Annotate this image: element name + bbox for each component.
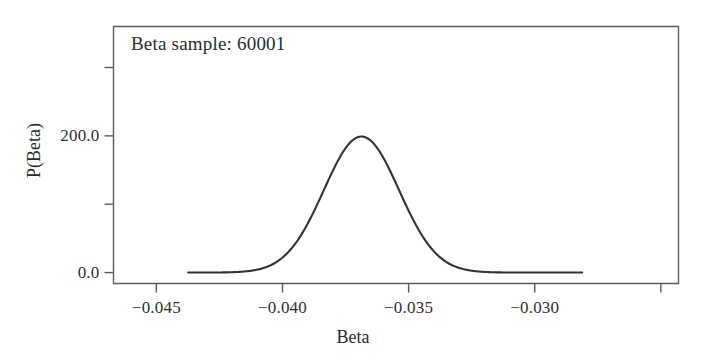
sample-annotation: Beta sample: 60001	[131, 33, 286, 55]
x-tick-label: −0.045	[132, 298, 181, 318]
y-tick-label: 200.0	[60, 126, 99, 146]
density-curve	[188, 137, 582, 273]
y-tick-label: 0.0	[78, 263, 100, 283]
y-axis-title: P(Beta)	[24, 91, 45, 211]
plot-canvas	[0, 0, 706, 360]
x-tick-label: −0.040	[258, 298, 307, 318]
x-tick-label: −0.030	[510, 298, 559, 318]
x-tick-label: −0.035	[384, 298, 433, 318]
density-plot-figure: Beta sample: 60001 −0.045−0.040−0.035−0.…	[0, 0, 706, 360]
axis-ticks	[105, 68, 661, 293]
x-axis-title: Beta	[0, 327, 706, 348]
plot-frame	[114, 27, 679, 284]
